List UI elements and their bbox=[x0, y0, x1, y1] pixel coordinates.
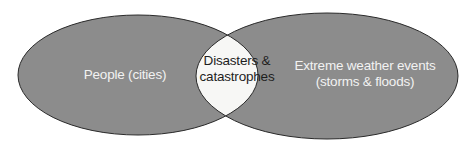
intersection-label: Disasters & catastrophes bbox=[197, 53, 277, 85]
set-left-label: People (cities) bbox=[60, 67, 190, 83]
set-right-label-line1: Extreme weather events bbox=[290, 58, 440, 74]
set-right-label-line2: (storms & floods) bbox=[290, 74, 440, 90]
intersection-label-line2: catastrophes bbox=[197, 69, 277, 85]
set-left-label-text: People (cities) bbox=[84, 67, 167, 82]
intersection-label-line1: Disasters & bbox=[197, 53, 277, 69]
set-right-label: Extreme weather events (storms & floods) bbox=[290, 58, 440, 90]
